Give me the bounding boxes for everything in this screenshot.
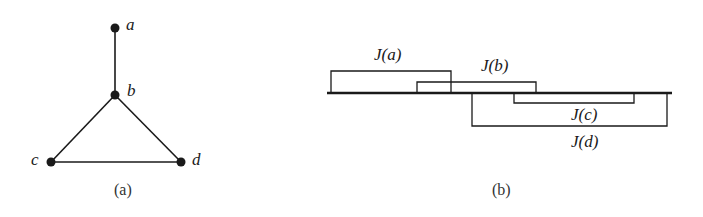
interval-panel-b	[327, 71, 672, 126]
interval-J-d	[472, 93, 667, 126]
diagram-canvas	[0, 0, 703, 217]
interval-label-J-a: J(a)	[374, 46, 401, 63]
interval-label-J-d: J(d)	[571, 133, 598, 150]
edge-b-d	[115, 95, 181, 162]
caption-a: (a)	[114, 182, 132, 198]
interval-J-c	[514, 93, 634, 103]
interval-J-b	[417, 82, 536, 93]
node-label-b: b	[127, 82, 136, 99]
node-label-d: d	[192, 151, 201, 168]
edge-b-c	[51, 95, 115, 162]
interval-label-J-b: J(b)	[481, 57, 508, 74]
node-b	[111, 91, 120, 100]
interval-label-J-c: J(c)	[571, 106, 597, 123]
node-c	[47, 158, 56, 167]
node-label-a: a	[126, 16, 135, 33]
node-label-c: c	[31, 151, 39, 168]
caption-b: (b)	[492, 182, 511, 198]
node-d	[177, 158, 186, 167]
node-a	[111, 24, 120, 33]
